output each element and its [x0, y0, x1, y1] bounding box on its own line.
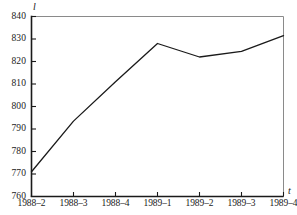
plot-area: [0, 0, 297, 215]
chart-figure: l t 760770780790800810820830840 1988–219…: [0, 0, 297, 215]
data-series-line: [32, 36, 284, 172]
